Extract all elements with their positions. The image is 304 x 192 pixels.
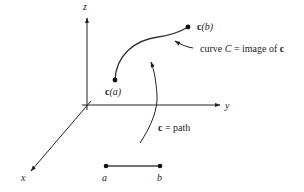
path-mapping-arrow — [140, 62, 157, 143]
interval-a-label: a — [102, 172, 107, 183]
parameter-interval — [104, 164, 163, 169]
x-axis — [31, 101, 91, 171]
y-axis-label: y — [224, 100, 230, 111]
interval-b-label: b — [157, 172, 162, 183]
path-label: c = path — [158, 122, 190, 133]
interval-end-point — [158, 164, 163, 169]
curve-start-label: c(a) — [105, 86, 122, 98]
curve-end-label: c(b) — [197, 21, 214, 33]
interval-start-point — [104, 164, 109, 169]
curve-start-point — [113, 78, 118, 83]
curve-end-point — [186, 25, 191, 30]
parametric-curve-diagram: z y x c(a) c(b) curve C = image of c c =… — [0, 0, 304, 192]
x-axis-label: x — [20, 172, 26, 183]
curve-c — [113, 25, 191, 83]
curve-annotation-arrow — [175, 41, 193, 48]
z-axis-label: z — [82, 1, 87, 12]
curve-annotation-label: curve C = image of c — [200, 43, 285, 54]
